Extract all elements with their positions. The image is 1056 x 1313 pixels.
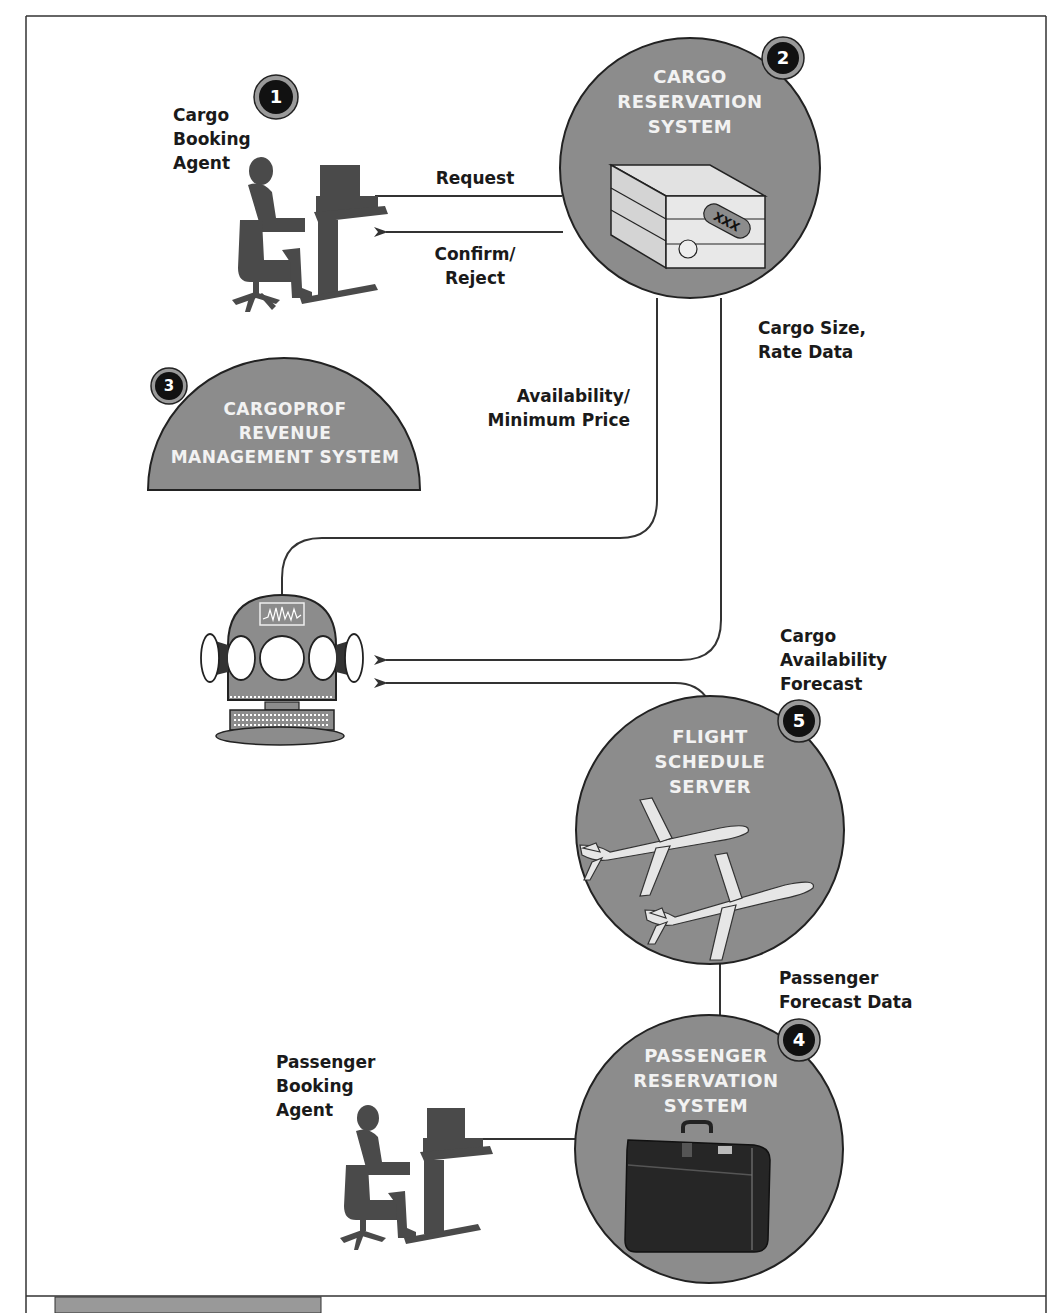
edge-label-cargo-size: Cargo Size, Rate Data xyxy=(758,316,866,364)
edge-cargo-forecast xyxy=(386,683,708,700)
cargo-booking-agent[interactable] xyxy=(232,157,388,312)
edge-label-passenger-forecast: Passenger Forecast Data xyxy=(779,966,912,1014)
badge-3-number: 3 xyxy=(159,375,179,397)
cargo-reservation-system-title: CARGO RESERVATION SYSTEM xyxy=(590,64,790,139)
badge-1-number: 1 xyxy=(266,85,286,109)
edge-label-request: Request xyxy=(400,166,550,190)
cargo-booking-agent-label: Cargo Booking Agent xyxy=(173,103,251,175)
person-at-computer-icon xyxy=(232,157,388,312)
edge-label-availability: Availability/ Minimum Price xyxy=(440,384,630,432)
edge-label-cargo-forecast: Cargo Availability Forecast xyxy=(780,624,887,696)
edge-label-confirm-reject: Confirm/ Reject xyxy=(400,242,550,290)
flight-schedule-server-title: FLIGHT SCHEDULE SERVER xyxy=(610,724,810,799)
passenger-booking-agent[interactable] xyxy=(340,1105,493,1250)
person-at-computer-icon xyxy=(340,1105,493,1250)
diagram-frame xyxy=(26,16,1046,1313)
forecast-robot-icon xyxy=(201,595,363,745)
passenger-reservation-system-title: PASSENGER RESERVATION SYSTEM xyxy=(596,1043,816,1118)
passenger-booking-agent-label: Passenger Booking Agent xyxy=(276,1050,375,1122)
forecast-engine[interactable] xyxy=(201,595,363,745)
cargoprof-rms-title: CARGOPROF REVENUE MANAGEMENT SYSTEM xyxy=(150,397,420,469)
edge-cargo-size xyxy=(386,298,721,660)
